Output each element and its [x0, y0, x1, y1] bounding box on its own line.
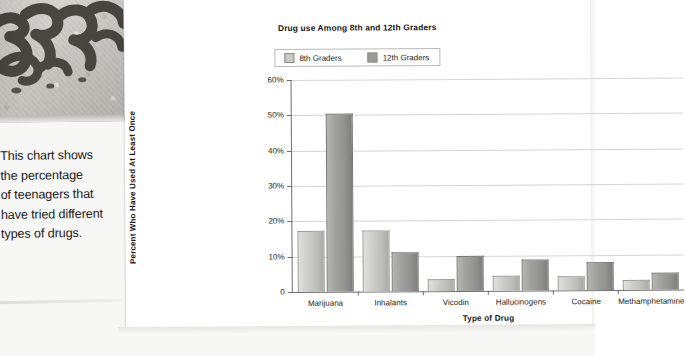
bar-12th-graders[interactable]	[652, 273, 679, 290]
caption-page-edge	[0, 299, 122, 305]
x-tick-label: Methamphetamine	[618, 297, 684, 306]
x-tick-label: Vicodin	[443, 298, 469, 307]
bar-12th-graders[interactable]	[587, 262, 614, 290]
x-tick-mark	[553, 290, 554, 294]
y-tick-label: 40%	[268, 146, 284, 155]
y-tick-label: 10%	[269, 252, 285, 261]
bar-group: Methamphetamine	[617, 78, 683, 290]
x-tick-label: Cocaine	[571, 297, 600, 306]
bar-group: Marijuana	[292, 80, 358, 292]
y-tick-label: 30%	[268, 182, 284, 191]
bar-group: Cocaine	[552, 78, 618, 290]
y-axis-title-text: Percent Who Have Used At Least Once	[127, 110, 137, 263]
caption-line: the percentage	[0, 165, 118, 186]
x-tick-mark	[423, 291, 424, 295]
y-axis-title: Percent Who Have Used At Least Once	[125, 81, 140, 293]
legend-item-12th-graders: 12th Graders	[368, 52, 430, 62]
caption-line: This chart shows	[0, 146, 118, 167]
x-axis-title: Type of Drug	[293, 313, 684, 324]
bar-group: Vicodin	[422, 79, 488, 291]
x-tick-mark	[488, 291, 489, 295]
photo-shading	[0, 0, 125, 123]
legend-swatch-icon	[284, 53, 294, 63]
bar-8th-graders[interactable]	[428, 279, 455, 291]
y-tick-label: 0	[280, 288, 285, 297]
bar-group: Inhalants	[357, 79, 423, 291]
chart-page-bottom-edge	[118, 324, 595, 336]
bar-8th-graders[interactable]	[623, 280, 650, 290]
legend-label: 8th Graders	[299, 53, 341, 62]
legend-swatch-icon	[368, 52, 378, 62]
graffiti-wall-photo	[0, 0, 125, 123]
bar-groups: MarijuanaInhalantsVicodinHallucinogensCo…	[292, 78, 684, 292]
bar-12th-graders[interactable]	[391, 252, 418, 291]
y-tick-label: 20%	[268, 217, 284, 226]
bar-group: Hallucinogens	[487, 78, 553, 290]
x-tick-mark	[357, 292, 358, 296]
photo-bottom-edge	[0, 114, 125, 122]
bar-12th-graders[interactable]	[457, 256, 484, 291]
bar-12th-graders[interactable]	[325, 114, 353, 292]
caption-line: types of drugs.	[1, 224, 119, 245]
chart-page: Drug use Among 8th and 12th Graders 8th …	[124, 0, 592, 330]
legend-item-8th-graders: 8th Graders	[284, 53, 341, 63]
x-tick-label: Inhalants	[374, 298, 407, 307]
bar-12th-graders[interactable]	[522, 259, 549, 291]
caption-line: have tried different	[1, 204, 119, 225]
legend-label: 12th Graders	[383, 53, 430, 62]
bar-8th-graders[interactable]	[558, 276, 585, 290]
chart-legend: 8th Graders 12th Graders	[274, 48, 440, 67]
chart-title: Drug use Among 8th and 12th Graders	[124, 21, 590, 34]
bar-8th-graders[interactable]	[493, 275, 520, 290]
x-tick-label: Hallucinogens	[496, 297, 546, 306]
y-tick-label: 60%	[267, 76, 283, 85]
bar-8th-graders[interactable]	[297, 231, 324, 292]
bar-8th-graders[interactable]	[362, 230, 389, 291]
x-tick-mark	[618, 290, 619, 294]
caption-line: of teenagers that	[0, 185, 118, 206]
x-tick-label: Marijuana	[308, 299, 343, 308]
plot-area: 010%20%30%40%50%60% MarijuanaInhalantsVi…	[292, 78, 684, 292]
y-tick-label: 50%	[268, 111, 284, 120]
caption-text: This chart shows the percentage of teena…	[0, 146, 119, 245]
